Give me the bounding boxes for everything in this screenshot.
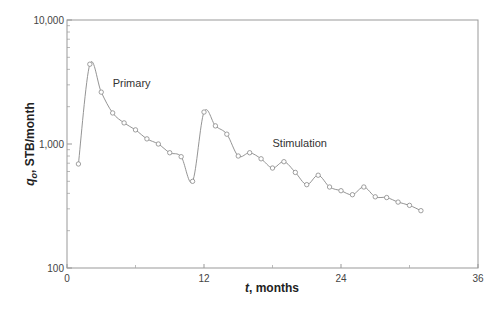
- y-axis-ticks: 1001,00010,000: [33, 15, 72, 274]
- data-point-marker: [293, 170, 297, 174]
- data-point-marker: [225, 132, 229, 136]
- data-point-marker: [396, 200, 400, 204]
- data-point-marker: [168, 151, 172, 155]
- y-axis-title: qo, STB/month: [23, 102, 39, 186]
- x-tick-label: 12: [198, 273, 210, 284]
- data-point-marker: [133, 128, 137, 132]
- x-tick-label: 36: [472, 273, 484, 284]
- data-point-marker: [110, 111, 114, 115]
- data-point-marker: [213, 124, 217, 128]
- data-point-marker: [99, 90, 103, 94]
- data-point-marker: [247, 151, 251, 155]
- annotation-primary: Primary: [113, 77, 151, 89]
- data-point-marker: [384, 195, 388, 199]
- data-point-marker: [179, 154, 183, 158]
- data-point-marker: [270, 166, 274, 170]
- x-axis-title: t, months: [245, 281, 299, 295]
- x-tick-label: 24: [335, 273, 347, 284]
- y-tick-label: 100: [47, 263, 64, 274]
- data-point-marker: [156, 142, 160, 146]
- annotation-stimulation: Stimulation: [273, 137, 327, 149]
- data-point-marker: [316, 173, 320, 177]
- y-tick-label: 10,000: [33, 15, 64, 26]
- data-point-marker: [339, 189, 343, 193]
- data-point-marker: [88, 62, 92, 66]
- x-tick-label: 0: [64, 273, 70, 284]
- data-point-marker: [122, 121, 126, 125]
- data-point-marker: [190, 179, 194, 183]
- data-point-marker: [76, 162, 80, 166]
- data-point-marker: [236, 154, 240, 158]
- data-point-marker: [282, 159, 286, 163]
- data-point-marker: [305, 182, 309, 186]
- data-point-marker: [327, 185, 331, 189]
- data-point-marker: [259, 157, 263, 161]
- decline-curve-chart: 0122436 1001,00010,000 PrimaryStimulatio…: [0, 0, 504, 310]
- y-tick-label: 1,000: [39, 139, 64, 150]
- data-point-marker: [202, 110, 206, 114]
- data-point-marker: [350, 193, 354, 197]
- data-point-marker: [407, 203, 411, 207]
- data-point-marker: [373, 195, 377, 199]
- data-point-marker: [145, 137, 149, 141]
- data-point-marker: [419, 208, 423, 212]
- data-point-marker: [362, 185, 366, 189]
